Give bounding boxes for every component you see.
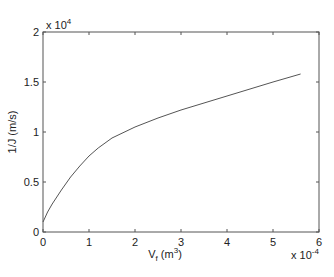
- y-multiplier: x 104: [46, 17, 72, 31]
- x-tick-label: 4: [224, 236, 230, 248]
- chart-container: 0123456 00.511.52 x 104 x 10-4 Vf (m3) 1…: [0, 0, 334, 277]
- axes: [43, 32, 319, 232]
- y-tick-label: 0.5: [24, 176, 39, 188]
- x-tick-label: 5: [270, 236, 276, 248]
- data-series: [43, 74, 301, 222]
- x-tick-label: 1: [86, 236, 92, 248]
- x-axis-label: Vf (m3): [148, 246, 182, 263]
- y-tick-label: 1.5: [24, 76, 39, 88]
- x-tick-label: 0: [40, 236, 46, 248]
- x-tick-label: 2: [132, 236, 138, 248]
- y-tick-label: 2: [33, 26, 39, 38]
- line-chart: 0123456 00.511.52 x 104 x 10-4 Vf (m3) 1…: [0, 0, 334, 277]
- y-tick-label: 0: [33, 226, 39, 238]
- plot-frame: [43, 32, 319, 232]
- y-axis-label: 1/J (m/s): [6, 111, 18, 154]
- x-tick-labels: 0123456: [40, 236, 322, 248]
- x-tick-label: 3: [178, 236, 184, 248]
- x-multiplier: x 10-4: [291, 247, 319, 261]
- y-tick-label: 1: [33, 126, 39, 138]
- tick-marks: [43, 32, 319, 232]
- series-line: [43, 74, 301, 222]
- y-tick-labels: 00.511.52: [24, 26, 39, 238]
